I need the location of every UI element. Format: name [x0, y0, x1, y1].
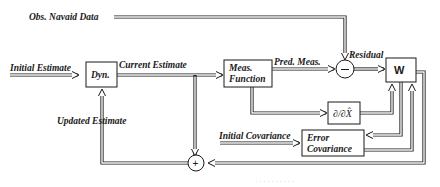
partial-derivative-block: ∂/∂X̂	[328, 102, 360, 124]
plus-icon: +	[193, 158, 199, 169]
weight-label: W	[394, 64, 405, 76]
arrow-into-dyn	[72, 72, 79, 79]
error-covariance-label-2: Covariance	[307, 144, 353, 154]
residual-label: Residual	[348, 50, 384, 60]
meas-function-label-2: Function	[228, 74, 265, 84]
current-estimate-label: Current Estimate	[119, 60, 188, 70]
arrow-partial-into-w	[389, 84, 396, 91]
meas-function-label-1: Meas.	[228, 63, 253, 73]
kalman-filter-block-diagram: Dyn. Meas. Function W ∂/∂X̂ Error Covari…	[0, 0, 440, 187]
initial-estimate-label: Initial Estimate	[9, 63, 72, 73]
arrow-obs-into-difference	[342, 53, 349, 60]
partial-derivative-label: ∂/∂X̂	[333, 107, 353, 119]
difference-junction	[336, 60, 354, 78]
arrow-w-into-error-cov	[366, 132, 373, 139]
arrow-into-w	[378, 66, 385, 73]
arrow-into-error-cov	[293, 140, 300, 147]
arrow-updated-into-dyn	[99, 89, 106, 96]
updated-estimate-label: Updated Estimate	[57, 116, 127, 126]
arrow-cov-into-w	[409, 84, 416, 91]
dynamics-block: Dyn.	[86, 62, 117, 87]
caption-text: · · · · · · · · · ·	[255, 178, 294, 186]
weight-block: W	[386, 58, 416, 82]
arrow-correction-into-sum	[208, 160, 215, 167]
obs-navaid-data-label: Obs. Navaid Data	[29, 12, 99, 22]
initial-covariance-label: Initial Covariance	[218, 131, 291, 141]
pred-meas-label: Pred. Meas.	[274, 57, 321, 67]
sum-junction: +	[188, 155, 204, 171]
meas-function-block: Meas. Function	[224, 60, 272, 87]
dynamics-label: Dyn.	[90, 70, 110, 80]
error-covariance-label-1: Error	[306, 133, 329, 143]
error-covariance-block: Error Covariance	[302, 130, 364, 156]
arrow-into-partial	[320, 110, 327, 117]
arrow-into-meas-function	[216, 72, 223, 79]
arrow-into-difference	[328, 66, 335, 73]
